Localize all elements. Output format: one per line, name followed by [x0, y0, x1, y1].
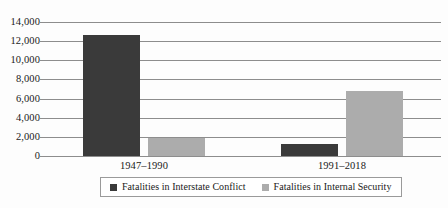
- gridline: [45, 22, 441, 23]
- bar: [346, 91, 403, 156]
- y-axis-tick-label: 4,000: [0, 113, 40, 124]
- bar: [83, 35, 140, 156]
- legend-swatch-icon: [110, 184, 117, 191]
- legend-label: Fatalities in Internal Security: [274, 182, 392, 192]
- legend-swatch-icon: [262, 184, 269, 191]
- chart-legend: Fatalities in Interstate ConflictFatalit…: [100, 177, 402, 197]
- legend-item: Fatalities in Internal Security: [262, 182, 392, 192]
- x-axis-category-label: 1947–1990: [84, 161, 204, 172]
- y-axis-tick-label: 8,000: [0, 74, 40, 85]
- bar: [148, 138, 205, 156]
- x-axis-category-label: 1991–2018: [282, 161, 402, 172]
- y-axis-tick-label: 0: [0, 151, 40, 162]
- y-axis-tick-label: 14,000: [0, 17, 40, 28]
- y-axis-tick-label: 2,000: [0, 132, 40, 143]
- bar: [281, 144, 338, 156]
- legend-label: Fatalities in Interstate Conflict: [122, 182, 246, 192]
- bar-chart: 02,0004,0006,0008,00010,00012,00014,000 …: [0, 0, 448, 208]
- y-axis-tick-label: 12,000: [0, 36, 40, 47]
- legend-item: Fatalities in Interstate Conflict: [110, 182, 246, 192]
- gridline: [45, 156, 441, 157]
- plot-area: [45, 22, 441, 156]
- y-axis-tick-label: 6,000: [0, 94, 40, 105]
- y-axis-tick-label: 10,000: [0, 55, 40, 66]
